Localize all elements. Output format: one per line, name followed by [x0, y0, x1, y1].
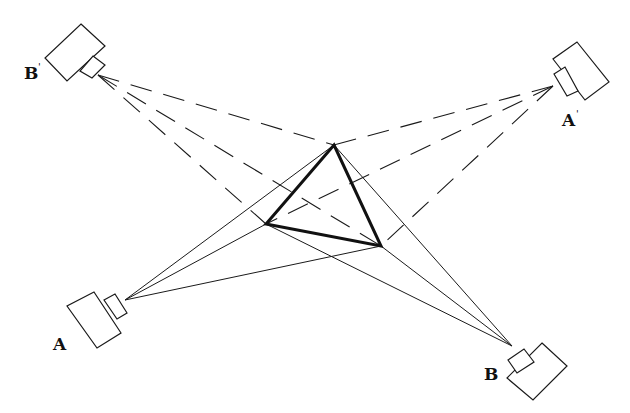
diagram-canvas: ABA'B' [0, 0, 630, 413]
cameras: ABA'B' [24, 24, 609, 400]
ray-b-to-left [266, 224, 512, 346]
ray-b-prime-to-top [98, 75, 334, 145]
ray-a-to-right [125, 246, 381, 300]
camera-b: B [484, 343, 567, 400]
camera-label: A [561, 110, 576, 130]
ray-a-prime-to-top [334, 86, 553, 145]
observed-triangle [266, 145, 381, 246]
projection-rays [98, 75, 553, 346]
ray-a-to-top [125, 145, 334, 300]
ray-a-prime-to-right [381, 86, 553, 246]
camera-b-prime: B' [24, 24, 105, 83]
ray-b-to-top [334, 145, 512, 346]
camera-a: A [52, 292, 127, 354]
camera-label: B [24, 63, 38, 83]
camera-a-prime: A' [553, 42, 609, 130]
ray-b-to-right [381, 246, 512, 346]
camera-label-prime: ' [38, 61, 41, 72]
ray-b-prime-to-right [98, 75, 381, 246]
stereo-triangulation-diagram: ABA'B' [0, 0, 630, 413]
camera-label: A [52, 334, 67, 354]
ray-a-to-left [125, 224, 266, 300]
camera-label-prime: ' [576, 108, 579, 119]
ray-a-prime-to-left [266, 86, 553, 224]
triangle-outline [266, 145, 381, 246]
camera-label: B [484, 364, 498, 384]
ray-b-prime-to-left [98, 75, 266, 224]
